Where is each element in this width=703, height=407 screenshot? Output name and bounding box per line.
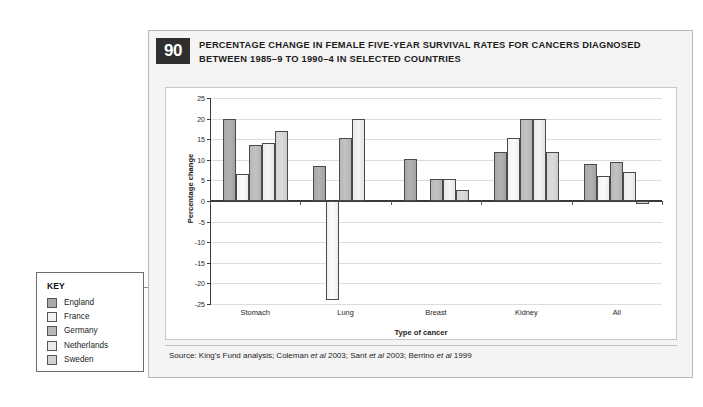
bar <box>313 166 326 201</box>
source-note: Source: King's Fund analysis; Coleman et… <box>169 351 472 360</box>
y-tick-mark <box>207 263 211 264</box>
plot-inner: Percentage change Type of cancer 2520151… <box>166 88 676 339</box>
key-title: KEY <box>47 281 65 291</box>
x-tick-mark <box>300 201 301 205</box>
bar <box>597 176 610 201</box>
key-item-label: France <box>64 312 89 321</box>
y-tick-mark <box>207 222 211 223</box>
bar <box>533 119 546 201</box>
bar <box>339 138 352 201</box>
x-tick-label-kidney: Kidney <box>481 308 571 317</box>
gridline <box>210 222 662 223</box>
key-swatch-icon <box>47 312 57 322</box>
x-tick-label-breast: Breast <box>391 308 481 317</box>
figure-root: KEY EnglandFranceGermanyNetherlandsSwede… <box>0 0 703 407</box>
key-swatch-icon <box>47 326 57 336</box>
bar <box>623 172 636 201</box>
y-tick-label: -20 <box>166 280 205 287</box>
bar <box>430 179 443 201</box>
y-tick-mark <box>207 119 211 120</box>
bar <box>404 159 417 201</box>
y-tick-label: 10 <box>166 156 205 163</box>
y-tick-label: -10 <box>166 239 205 246</box>
y-tick-label: 5 <box>166 177 205 184</box>
gridline <box>210 98 662 99</box>
bar <box>262 143 275 201</box>
bar <box>275 131 288 201</box>
x-tick-mark <box>572 201 573 205</box>
plot-area <box>210 98 662 304</box>
bar <box>236 174 249 201</box>
bar <box>520 119 533 201</box>
key-item-label: Sweden <box>64 355 94 364</box>
y-tick-label: 20 <box>166 115 205 122</box>
source-strip: Source: King's Fund analysis; Coleman et… <box>165 345 677 368</box>
key-item-label: Germany <box>64 326 98 335</box>
bar <box>546 152 559 201</box>
key-item-label: Netherlands <box>64 341 108 350</box>
bar <box>352 119 365 201</box>
y-tick-label: -15 <box>166 259 205 266</box>
key-swatch-icon <box>47 355 57 365</box>
y-tick-mark <box>207 98 211 99</box>
y-tick-mark <box>207 180 211 181</box>
x-tick-label-stomach: Stomach <box>210 308 300 317</box>
y-tick-label: -5 <box>166 218 205 225</box>
y-tick-mark <box>207 160 211 161</box>
x-tick-mark <box>662 201 663 205</box>
bar <box>610 162 623 201</box>
gridline <box>210 263 662 264</box>
bar <box>507 138 520 201</box>
bar <box>326 201 339 300</box>
x-axis-title: Type of cancer <box>166 328 676 337</box>
key-item-label: England <box>64 298 94 307</box>
y-tick-label: 15 <box>166 136 205 143</box>
key-swatch-icon <box>47 341 57 351</box>
plot-card: Percentage change Type of cancer 2520151… <box>165 87 677 340</box>
gridline <box>210 283 662 284</box>
figure-number-badge: 90 <box>156 38 190 64</box>
bar <box>636 201 649 204</box>
bar <box>456 190 469 201</box>
bar <box>223 119 236 201</box>
gridline <box>210 304 662 305</box>
x-tick-mark <box>481 201 482 205</box>
figure-header: 90 PERCENTAGE CHANGE IN FEMALE FIVE-YEAR… <box>149 31 692 79</box>
gridline <box>210 119 662 120</box>
bar <box>249 145 262 201</box>
x-tick-label-all: All <box>572 308 662 317</box>
y-tick-mark <box>207 242 211 243</box>
x-tick-mark <box>391 201 392 205</box>
y-tick-mark <box>207 304 211 305</box>
x-tick-label-lung: Lung <box>301 308 391 317</box>
bar <box>443 179 456 201</box>
figure-panel: 90 PERCENTAGE CHANGE IN FEMALE FIVE-YEAR… <box>148 30 693 378</box>
y-tick-label: -25 <box>166 301 205 308</box>
bar <box>584 164 597 201</box>
y-tick-label: 0 <box>166 198 205 205</box>
y-tick-mark <box>207 139 211 140</box>
x-tick-mark <box>210 201 211 205</box>
y-tick-mark <box>207 283 211 284</box>
y-tick-label: 25 <box>166 95 205 102</box>
bar <box>494 152 507 201</box>
chart-key-legend: KEY EnglandFranceGermanyNetherlandsSwede… <box>36 272 144 372</box>
figure-title: PERCENTAGE CHANGE IN FEMALE FIVE-YEAR SU… <box>199 39 680 66</box>
gridline <box>210 242 662 243</box>
key-swatch-icon <box>47 298 57 308</box>
